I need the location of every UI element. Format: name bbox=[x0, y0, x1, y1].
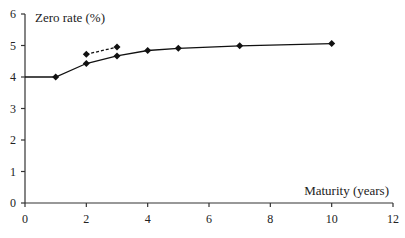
x-tick-label: 8 bbox=[267, 212, 273, 226]
y-tick-label: 6 bbox=[10, 7, 16, 21]
diamond-marker bbox=[328, 40, 335, 47]
y-tick-label: 3 bbox=[10, 102, 16, 116]
y-tick-label: 0 bbox=[10, 196, 16, 210]
y-tick-label: 2 bbox=[10, 133, 16, 147]
y-axis-label: Zero rate (%) bbox=[35, 10, 105, 25]
diamond-marker bbox=[236, 42, 243, 49]
diamond-marker bbox=[83, 51, 90, 58]
diamond-marker bbox=[144, 47, 151, 54]
diamond-marker bbox=[52, 74, 59, 81]
y-tick-label: 1 bbox=[10, 165, 16, 179]
x-tick-label: 0 bbox=[22, 212, 28, 226]
diamond-marker bbox=[175, 45, 182, 52]
data-series bbox=[25, 40, 335, 80]
diamond-marker bbox=[114, 44, 121, 51]
x-tick-label: 10 bbox=[326, 212, 338, 226]
x-axis-label: Maturity (years) bbox=[304, 183, 389, 198]
diamond-marker bbox=[83, 60, 90, 67]
axes bbox=[21, 14, 393, 207]
series-line bbox=[86, 47, 117, 54]
x-tick-label: 6 bbox=[206, 212, 212, 226]
zero-rate-chart: 0123456024681012 Zero rate (%) Maturity … bbox=[0, 0, 405, 238]
y-tick-label: 4 bbox=[10, 70, 16, 84]
x-tick-label: 12 bbox=[387, 212, 399, 226]
diamond-marker bbox=[114, 52, 121, 59]
x-tick-label: 2 bbox=[83, 212, 89, 226]
y-tick-label: 5 bbox=[10, 39, 16, 53]
x-tick-label: 4 bbox=[145, 212, 151, 226]
